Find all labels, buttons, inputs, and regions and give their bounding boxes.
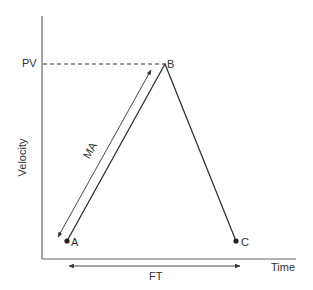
ft-label: FT [149,271,162,282]
point-b-label: B [167,59,174,70]
point-a-dot [64,238,69,243]
y-axis-label: Velocity [17,136,28,180]
ma-double-arrow [58,70,151,237]
peak-velocity-label: PV [22,58,37,69]
x-axis-label: Time [271,262,295,273]
diagram-canvas [0,0,313,290]
point-c-dot [233,238,238,243]
point-c-label: C [241,237,249,248]
velocity-time-diagram: PV B A C Velocity Time MA FT [0,0,313,290]
point-a-label: A [71,237,78,248]
